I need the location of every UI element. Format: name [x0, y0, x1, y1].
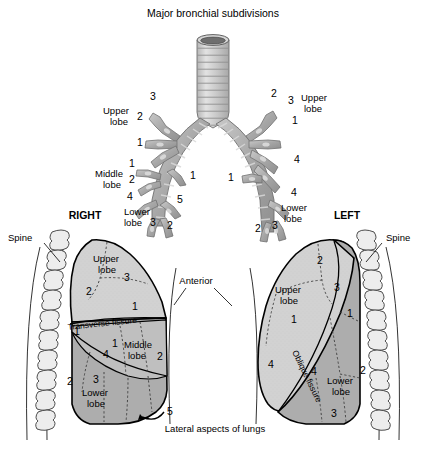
- right-middle-seg-1: 1: [112, 337, 118, 349]
- tree-right-lower-label-line1: Lower: [124, 206, 150, 217]
- left-lower-seg-4: 4: [311, 365, 317, 377]
- right-lower-seg-3: 3: [93, 373, 99, 385]
- tree-right-middle-seg-2: 2: [129, 173, 135, 185]
- right-main-bronchus: [152, 118, 210, 226]
- tree-left-lower-label-line2: lobe: [284, 213, 302, 224]
- tree-right-lower-seg-1: 1: [190, 169, 196, 181]
- right-lower-seg-1: 1: [74, 325, 80, 337]
- right-middle-lobe-label-line2: lobe: [128, 350, 146, 361]
- right-middle-seg-2: 2: [157, 350, 163, 362]
- left-lung-diagram: Spine 2 3 Upper lobe 1 4 Oblique fissure…: [258, 230, 410, 440]
- tree-left-lower-seg-4: 4: [291, 186, 297, 198]
- tree-right-lower-seg-3: 3: [150, 216, 156, 228]
- tree-left-lower-label-line1: Lower: [281, 202, 307, 213]
- right-upper-lobe-label-line2: lobe: [98, 264, 116, 275]
- anterior-label: Anterior: [179, 275, 212, 286]
- tree-right-lower-seg-5: 5: [177, 193, 183, 205]
- tree-left-upper-seg-1: 1: [292, 114, 298, 126]
- right-spine-label: Spine: [8, 232, 32, 243]
- right-upper-seg-1: 1: [132, 300, 138, 312]
- tree-left-upper-label-line1: Upper: [301, 92, 327, 103]
- tree-right-middle-label-line1: Middle: [95, 168, 123, 179]
- right-lower-seg-2: 2: [67, 375, 73, 387]
- tree-right-lower-seg-4: 4: [127, 190, 133, 202]
- left-lower-seg-3: 3: [331, 407, 337, 419]
- left-spine-label: Spine: [386, 232, 410, 243]
- tree-right-upper-seg-1: 1: [137, 136, 143, 148]
- left-spine-vertebrae: [357, 230, 391, 430]
- trachea: [197, 35, 229, 128]
- right-side-heading: RIGHT: [69, 209, 102, 221]
- left-upper-lobe-label-line2: lobe: [280, 295, 298, 306]
- tree-left-upper-label-line2: lobe: [304, 103, 322, 114]
- tree-left-upper-seg-2: 2: [271, 87, 277, 99]
- tree-left-lower-seg-3: 3: [272, 219, 278, 231]
- left-upper-seg-4: 4: [268, 358, 274, 370]
- left-lower-seg-2: 2: [360, 364, 366, 376]
- tree-right-upper-seg-3: 3: [150, 90, 156, 102]
- left-upper-seg-3: 3: [334, 281, 340, 293]
- tree-left-upper-seg-3: 3: [288, 94, 294, 106]
- left-lower-lobe-label-line2: lobe: [332, 386, 350, 397]
- left-lower-seg-1: 1: [347, 307, 353, 319]
- tree-left-upper-seg-4: 4: [294, 153, 300, 165]
- figure-canvas: Major bronchial subdivisions: [0, 0, 426, 460]
- right-lung-diagram: Spine Upper lobe 3 2 1 Transverse fissur…: [8, 230, 173, 440]
- right-upper-seg-3: 3: [124, 271, 130, 283]
- left-upper-seg-1: 1: [291, 313, 297, 325]
- tree-right-upper-label-line2: lobe: [110, 116, 128, 127]
- right-lower-lobe-label-line1: Lower: [82, 387, 108, 398]
- tree-left-lower-seg-1: 1: [228, 171, 234, 183]
- left-upper-seg-2: 2: [317, 254, 323, 266]
- right-spine-vertebrae: [36, 230, 70, 430]
- right-upper-lobe-label-line1: Upper: [93, 253, 119, 264]
- tree-right-lower-label-line2: lobe: [124, 217, 142, 228]
- tree-left-lower-seg-2: 2: [255, 222, 261, 234]
- figure-title: Major bronchial subdivisions: [147, 7, 279, 19]
- anterior-annotation: Anterior: [169, 268, 257, 424]
- left-upper-lobe-label-line1: Upper: [275, 284, 301, 295]
- tree-right-upper-seg-2: 2: [137, 110, 143, 122]
- tree-right-upper-label-line1: Upper: [103, 105, 129, 116]
- tree-right-middle-label-line2: lobe: [103, 179, 121, 190]
- right-upper-seg-2: 2: [86, 285, 92, 297]
- left-side-heading: LEFT: [334, 209, 361, 221]
- bronchial-tree: 3 Upper lobe 2 1 1 Middle lobe 2 4 5 Low…: [95, 35, 327, 242]
- left-lower-lobe-label-line1: Lower: [327, 375, 353, 386]
- right-middle-lobe-label-line1: Middle: [124, 339, 152, 350]
- figure-caption: Lateral aspects of lungs: [165, 423, 266, 434]
- right-lower-seg-4: 4: [103, 348, 109, 360]
- right-lower-lobe-label-line2: lobe: [87, 398, 105, 409]
- tree-right-lower-seg-2: 2: [167, 219, 173, 231]
- tree-right-middle-seg-1: 1: [129, 157, 135, 169]
